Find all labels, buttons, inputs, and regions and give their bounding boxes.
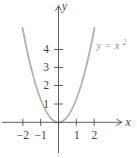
equation-exponent: 2: [123, 38, 127, 47]
x-tick-label: −2: [17, 129, 29, 141]
x-tick-label: −1: [35, 129, 47, 141]
equation-base: y = x: [96, 40, 120, 51]
y-tick-label: 4: [43, 43, 49, 55]
x-tick-label: 2: [92, 129, 98, 141]
x-tick-label: 1: [74, 129, 80, 141]
parabola-plot-figure: −2 −1 1 2 4 3 2 1 x y y = x 2: [0, 0, 137, 158]
equation-label: y = x 2: [96, 38, 127, 51]
y-axis-label: y: [61, 0, 68, 13]
x-axis-label: x: [125, 116, 132, 128]
y-tick-label: 3: [43, 61, 49, 73]
y-tick-label: 2: [43, 79, 49, 91]
y-tick-label: 1: [43, 98, 49, 110]
